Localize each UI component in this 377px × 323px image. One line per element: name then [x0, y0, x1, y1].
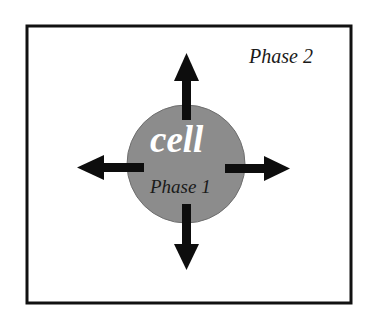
phase-1-label: Phase 1 — [149, 176, 211, 197]
phase-2-label: Phase 2 — [248, 45, 313, 67]
cell-label: cell — [150, 119, 204, 160]
diagram-canvas: Phase 2 cell Phase 1 — [0, 0, 377, 323]
